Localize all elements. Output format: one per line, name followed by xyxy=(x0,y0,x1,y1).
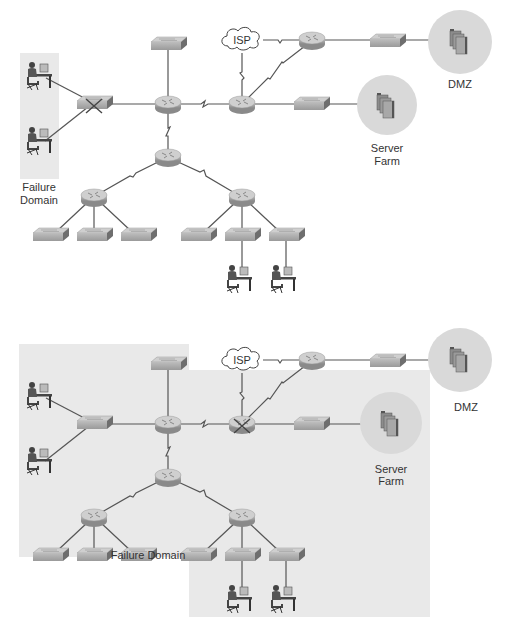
isp-label: ISP xyxy=(233,354,251,366)
switch-access-1-icon xyxy=(33,228,69,241)
dmz-switch-icon xyxy=(370,34,406,47)
isp-label: ISP xyxy=(233,34,251,46)
server-farm-label-1: Server xyxy=(371,142,404,154)
server-farm-label-2: Farm xyxy=(378,475,404,487)
failure-domain-label-2: Domain xyxy=(20,194,58,206)
switch-top-icon xyxy=(151,37,187,50)
diagram-bottom: ISP DMZ Server Farm Failure Domain xyxy=(19,328,492,617)
switch-access-4-icon xyxy=(181,228,217,241)
diagram-top: ISP DMZ Server Farm Failure Domain xyxy=(20,10,492,293)
router-branch-right-icon xyxy=(229,509,255,527)
workstation-icon xyxy=(271,265,296,293)
access-switch-left-icon xyxy=(77,416,113,429)
router-branch-right-icon xyxy=(229,189,255,207)
failure-domain-label-1: Failure xyxy=(22,181,56,193)
router-distribution-icon xyxy=(155,149,181,167)
switch-top-icon xyxy=(151,357,187,370)
router-core-left-icon xyxy=(155,416,181,434)
server-farm-label-1: Server xyxy=(375,463,408,475)
router-branch-left-icon xyxy=(81,509,107,527)
switch-access-4-icon xyxy=(181,548,217,561)
failure-domain-shade xyxy=(19,344,430,617)
dmz-switch-icon xyxy=(370,354,406,367)
router-core-right-icon xyxy=(229,96,255,114)
switch-access-6-icon xyxy=(269,228,305,241)
switch-access-5-icon xyxy=(225,548,261,561)
dmz-label: DMZ xyxy=(454,401,478,413)
router-edge-icon xyxy=(299,32,325,50)
switch-access-6-icon xyxy=(269,548,305,561)
workstation-icon xyxy=(227,265,252,293)
server-farm-label-2: Farm xyxy=(374,155,400,167)
router-core-left-icon xyxy=(155,96,181,114)
router-branch-left-icon xyxy=(81,189,107,207)
router-core-right-icon xyxy=(229,416,255,434)
router-distribution-icon xyxy=(155,469,181,487)
server-farm-switch-icon xyxy=(294,417,330,430)
server-farm-switch-icon xyxy=(294,97,330,110)
failure-domain-shade xyxy=(20,53,59,179)
failure-domain-label: Failure Domain xyxy=(111,549,186,561)
switch-access-2-icon xyxy=(77,548,113,561)
network-diagrams: ISP DMZ Server Farm Failure Domain xyxy=(0,0,518,642)
switch-access-3-icon xyxy=(121,228,157,241)
switch-access-5-icon xyxy=(225,228,261,241)
dmz-label: DMZ xyxy=(448,78,472,90)
switch-access-2-icon xyxy=(77,228,113,241)
router-edge-icon xyxy=(299,352,325,370)
switch-access-1-icon xyxy=(33,548,69,561)
